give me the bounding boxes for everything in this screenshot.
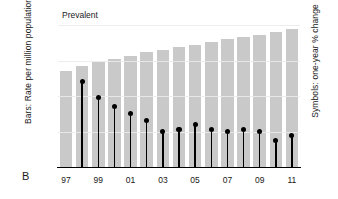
panel-label: B bbox=[22, 170, 29, 182]
stem-line bbox=[243, 130, 245, 167]
stem-line bbox=[130, 114, 132, 167]
stem-line bbox=[227, 132, 229, 168]
x-axis-tick-label: 07 bbox=[215, 175, 239, 185]
x-axis-tick-label: 97 bbox=[54, 175, 78, 185]
stem-line bbox=[114, 107, 116, 167]
stem-line bbox=[211, 130, 213, 167]
data-point-symbol bbox=[193, 122, 198, 127]
gridline-overlay bbox=[58, 96, 300, 97]
data-point-symbol bbox=[176, 127, 181, 132]
stem-line bbox=[98, 98, 100, 167]
x-axis-tick-label: 99 bbox=[86, 175, 110, 185]
x-axis-tick-label: 11 bbox=[280, 175, 304, 185]
gridline-overlay bbox=[58, 61, 300, 62]
stem-line bbox=[291, 135, 293, 167]
plot-title: Prevalent bbox=[62, 10, 98, 20]
stem-line bbox=[259, 132, 261, 168]
stem-line bbox=[275, 140, 277, 167]
stem-line bbox=[81, 82, 83, 167]
x-axis-line bbox=[57, 167, 301, 168]
stem-line bbox=[178, 130, 180, 167]
y-axis-right-title: Symbols: one-year % change bbox=[310, 0, 320, 136]
x-axis-tick-label: 05 bbox=[183, 175, 207, 185]
plot-area: 5001,0001,5002,000 02468 979901030507091… bbox=[58, 25, 300, 167]
stem-line bbox=[162, 132, 164, 168]
stem-line bbox=[194, 124, 196, 167]
bar bbox=[60, 71, 73, 167]
x-axis-tick-label: 09 bbox=[248, 175, 272, 185]
gridline-overlay bbox=[58, 25, 300, 26]
x-axis-tick-label: 03 bbox=[151, 175, 175, 185]
stem-line bbox=[146, 121, 148, 167]
y-axis-left-title: Bars: Rate per million population bbox=[23, 0, 33, 136]
x-axis-tick-label: 01 bbox=[119, 175, 143, 185]
data-point-symbol bbox=[225, 129, 230, 134]
figure-panel-b: Bars: Rate per million population Symbol… bbox=[0, 0, 338, 199]
